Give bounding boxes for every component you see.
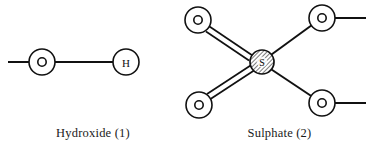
- hydrogen-atom: H: [113, 49, 139, 75]
- oxygen-atom: [29, 49, 55, 75]
- single-bond-s-o-bottom-right: [272, 70, 313, 97]
- sulphur-atom: S: [250, 50, 274, 74]
- sulphate-structure: S: [185, 5, 366, 118]
- caption-hydroxide: Hydroxide (1): [0, 126, 186, 141]
- hydrogen-atom-label: H: [122, 57, 130, 69]
- oxygen-atom-top-right: [309, 5, 335, 31]
- oxygen-atom-bottom-left: [186, 92, 212, 118]
- oxygen-letter-glyph: [38, 58, 46, 66]
- double-bond-s-o-bottom-left: [207, 66, 254, 100]
- sulphur-atom-label: S: [259, 57, 265, 68]
- oxygen-letter-glyph: [195, 101, 203, 109]
- chemical-structure-figure: H S: [0, 0, 373, 152]
- hydroxide-structure: H: [8, 49, 139, 75]
- caption-sulphate: Sulphate (2): [186, 126, 373, 141]
- double-bond-s-o-top-left: [206, 27, 253, 61]
- oxygen-atom-bottom-right: [309, 90, 335, 116]
- oxygen-atom-top-left: [185, 7, 211, 33]
- oxygen-letter-glyph: [194, 16, 202, 24]
- oxygen-letter-glyph: [318, 99, 326, 107]
- oxygen-letter-glyph: [318, 14, 326, 22]
- single-bond-s-o-top-right: [272, 25, 313, 55]
